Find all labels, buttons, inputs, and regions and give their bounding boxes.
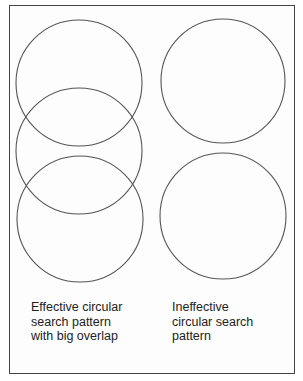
- effective-pattern-caption: Effective circular search pattern with b…: [31, 300, 122, 344]
- ineffective-pattern-caption: Ineffective circular search pattern: [172, 300, 253, 344]
- ineffective-pattern-circles: [160, 19, 286, 279]
- search-circle: [17, 156, 143, 282]
- effective-pattern-circles: [16, 20, 143, 282]
- search-circle: [160, 153, 286, 279]
- search-circle: [16, 20, 142, 146]
- search-circle: [16, 88, 142, 214]
- search-circle: [161, 19, 285, 143]
